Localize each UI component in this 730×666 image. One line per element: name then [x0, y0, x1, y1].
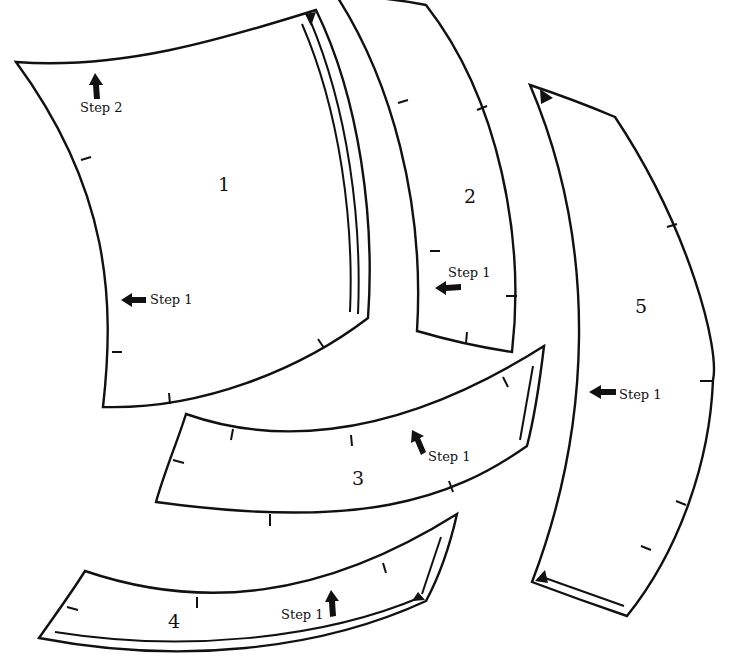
pattern-piece-1 — [16, 10, 370, 407]
pattern-svg: 1 2 3 4 5 Step 2 Step 1 Step 1 Step 1 St… — [0, 0, 730, 666]
pattern-piece-4 — [39, 514, 457, 651]
step-label: Step 1 — [428, 449, 471, 464]
step-label: Step 1 — [281, 607, 324, 622]
pattern-piece-5 — [530, 85, 714, 616]
piece-number-4: 4 — [168, 610, 180, 632]
piece-number-5: 5 — [635, 295, 647, 317]
step-label: Step 2 — [80, 100, 123, 115]
piece-number-3: 3 — [352, 467, 364, 489]
pattern-diagram: 1 2 3 4 5 Step 2 Step 1 Step 1 Step 1 St… — [0, 0, 730, 666]
piece-number-2: 2 — [464, 185, 476, 207]
step-label: Step 1 — [150, 292, 193, 307]
piece-number-1: 1 — [218, 173, 230, 195]
step-label: Step 1 — [448, 265, 491, 280]
step-label: Step 1 — [619, 387, 662, 402]
